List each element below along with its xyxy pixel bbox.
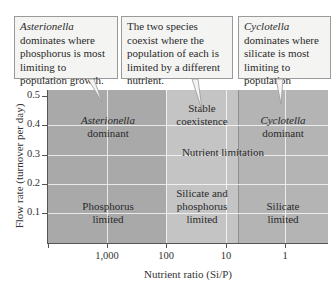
x-tick [226, 243, 227, 248]
x-tick-label: 10 [206, 250, 246, 261]
y-tick [42, 96, 48, 97]
y-axis-title: Flow rate (turnover per day) [13, 81, 25, 251]
y-tick [42, 184, 48, 185]
y-tick [42, 125, 48, 126]
pointer-cyclotella [276, 79, 283, 104]
y-axis [47, 90, 48, 244]
x-tick-label: 100 [146, 250, 186, 261]
y-tick [42, 213, 48, 214]
pointer-coexistence [192, 79, 202, 110]
x-tick [285, 243, 286, 248]
y-tick [42, 155, 48, 156]
x-tick [107, 243, 108, 248]
pointer-asterionella [88, 79, 102, 102]
x-tick-label: 1,000 [87, 250, 127, 261]
x-axis-title: Nutrient ratio (Si/P) [108, 268, 268, 280]
x-tick [48, 243, 49, 248]
x-tick-label: 1 [265, 250, 305, 261]
x-tick [166, 243, 167, 248]
